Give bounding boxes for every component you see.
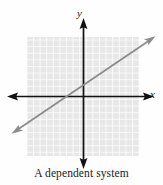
coordinate-plane-graphic [0, 0, 163, 185]
dependent-system-figure: y x A dependent system [0, 0, 163, 185]
y-axis-label: y [77, 8, 82, 19]
figure-caption: A dependent system [0, 167, 163, 179]
x-axis-label: x [150, 89, 155, 100]
